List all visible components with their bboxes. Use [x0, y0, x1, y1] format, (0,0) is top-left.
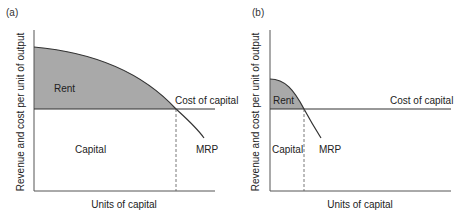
cost-label-a: Cost of capital — [175, 95, 238, 106]
panel-b: (b) Rent Capital Cost of capital MRP Uni… — [250, 7, 453, 210]
panel-a: (a) Rent Capital Cost of capital MRP Uni… — [6, 7, 238, 210]
x-label-a: Units of capital — [91, 199, 157, 210]
rent-area-a — [34, 47, 176, 109]
cost-label-b: Cost of capital — [390, 95, 453, 106]
capital-label-a: Capital — [75, 144, 106, 155]
rent-label-b: Rent — [273, 95, 294, 106]
panel-label-a: (a) — [6, 7, 18, 18]
y-label-a: Revenue and cost per unit of output — [15, 33, 26, 192]
mrp-label-a: MRP — [196, 144, 219, 155]
diagrams: (a) Rent Capital Cost of capital MRP Uni… — [0, 0, 466, 215]
y-label-b: Revenue and cost per unit of output — [250, 33, 261, 192]
rent-label-a: Rent — [54, 83, 75, 94]
mrp-label-b: MRP — [319, 144, 342, 155]
x-label-b: Units of capital — [327, 199, 393, 210]
panel-label-b: (b) — [252, 7, 264, 18]
capital-label-b: Capital — [272, 144, 303, 155]
